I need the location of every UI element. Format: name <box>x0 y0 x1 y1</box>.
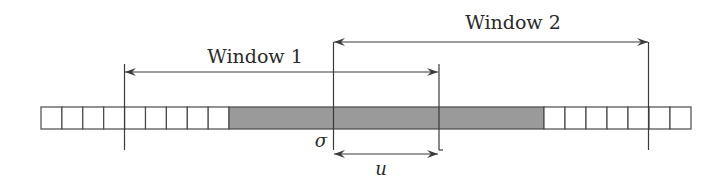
window1-label: Window 1 <box>207 45 303 67</box>
sigma-label: σ <box>315 130 328 151</box>
u-offset: u <box>334 154 438 179</box>
sliding-window-diagram: Window 1 Window 2 σ u <box>0 0 726 184</box>
window2-label: Window 2 <box>465 11 561 33</box>
window1-bracket: Window 1 <box>125 45 444 150</box>
shaded-region <box>229 107 544 129</box>
right-white-cells <box>544 107 691 129</box>
left-white-cells <box>41 107 229 129</box>
u-label: u <box>375 158 387 179</box>
